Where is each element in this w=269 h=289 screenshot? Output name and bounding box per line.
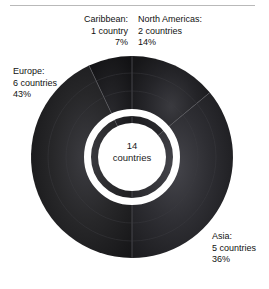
callout-europe-count: 6 countries (13, 78, 91, 90)
callout-caribbean: Caribbean: 1 country 7% (60, 14, 128, 49)
donut-center-hole (98, 123, 166, 191)
callout-north-americas-percent: 14% (138, 37, 228, 49)
callout-asia-name: Asia: (212, 231, 269, 243)
callout-europe-percent: 43% (13, 89, 91, 101)
callout-asia-count: 5 countries (212, 243, 269, 255)
donut-chart-figure: 14 countries Caribbean: 1 country 7% Nor… (0, 0, 269, 289)
callout-europe: Europe: 6 countries 43% (13, 66, 91, 101)
callout-north-americas: North Americas: 2 countries 14% (138, 14, 228, 49)
callout-europe-name: Europe: (13, 66, 91, 78)
callout-asia-percent: 36% (212, 254, 269, 266)
callout-caribbean-percent: 7% (60, 37, 128, 49)
callout-asia: Asia: 5 countries 36% (212, 231, 269, 266)
callout-north-americas-count: 2 countries (138, 26, 228, 38)
callout-north-americas-name: North Americas: (138, 14, 228, 26)
callout-caribbean-name: Caribbean: (60, 14, 128, 26)
callout-caribbean-count: 1 country (60, 26, 128, 38)
